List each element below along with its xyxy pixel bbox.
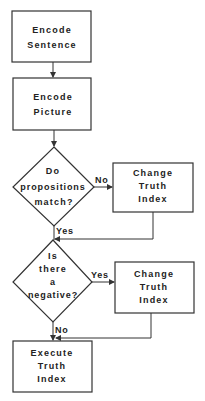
node-label: Index — [138, 194, 168, 204]
decision-label: match? — [34, 197, 73, 207]
node-encode-picture: Encode Picture — [13, 78, 91, 130]
node-label: Encode — [33, 92, 73, 102]
decision-label: negative? — [28, 290, 78, 300]
decision-label: Do — [46, 166, 60, 176]
edge-label-yes: Yes — [56, 226, 74, 236]
decision-label: Is — [48, 251, 58, 261]
node-execute-truth-index: Execute Truth Index — [13, 341, 92, 392]
node-label: Picture — [34, 107, 73, 117]
node-label: Change — [134, 269, 174, 279]
node-label: Change — [133, 168, 173, 178]
edge-change2-to-execute — [56, 313, 151, 338]
decision-label: propositions — [20, 182, 85, 192]
node-change-truth-index-1: Change Truth Index — [113, 163, 193, 212]
node-label: Index — [37, 374, 67, 384]
decision-propositions-match: Do propositions match? — [13, 147, 94, 226]
decision-label: a — [50, 277, 56, 287]
node-label: Truth — [140, 282, 169, 292]
edge-label-no: No — [95, 175, 109, 185]
node-label: Index — [139, 295, 169, 305]
node-label: Truth — [38, 361, 67, 371]
decision-label: there — [39, 264, 67, 274]
node-label: Sentence — [27, 40, 77, 50]
node-change-truth-index-2: Change Truth Index — [115, 262, 194, 313]
edge-label-yes: Yes — [91, 270, 109, 280]
node-label: Truth — [139, 181, 168, 191]
edge-label-no: No — [55, 325, 69, 335]
node-label: Encode — [32, 25, 72, 35]
node-encode-sentence: Encode Sentence — [12, 11, 91, 62]
decision-is-there-negative: Is there a negative? — [13, 240, 92, 322]
flowchart-canvas: Encode Sentence Encode Picture Do propos… — [0, 0, 205, 401]
node-label: Execute — [31, 348, 74, 358]
